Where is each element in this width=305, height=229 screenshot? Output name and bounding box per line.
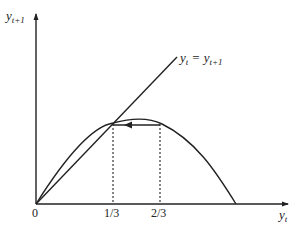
x-axis-label: yt	[277, 207, 288, 224]
tick-label-one-third: 1/3	[104, 206, 119, 220]
forty-five-degree-line	[36, 57, 177, 204]
tick-label-two-thirds: 2/3	[151, 206, 166, 220]
left-arrowhead-icon	[124, 122, 132, 129]
line-equation-label: yt=yt+1	[178, 50, 223, 67]
phase-diagram: yt+1 yt 0 1/3 2/3 yt=yt+1	[0, 0, 305, 229]
y-axis-label: yt+1	[4, 8, 25, 25]
hump-curve	[36, 119, 236, 204]
origin-label: 0	[32, 206, 38, 220]
